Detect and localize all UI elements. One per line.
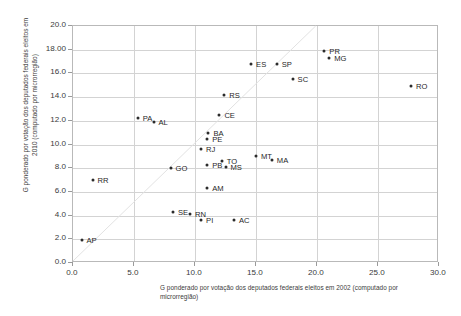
data-point-pa (136, 117, 139, 120)
data-point-sc (291, 78, 294, 81)
y-tick-label: 10.0 (26, 139, 66, 148)
data-point-ms (224, 166, 227, 169)
scatter-chart-figure: G ponderado por votação dos deputados fe… (0, 0, 461, 316)
data-point-ma (270, 158, 273, 161)
data-point-ap (80, 239, 83, 242)
x-tick-mark (316, 262, 317, 266)
data-point-mg (328, 56, 331, 59)
data-point-label-mg: MG (334, 53, 346, 62)
data-point-rn (189, 213, 192, 216)
data-point-se (172, 211, 175, 214)
x-axis-title: G ponderado por votação dos deputados fe… (160, 284, 400, 301)
data-point-label-ce: CE (224, 110, 235, 119)
x-tick-mark (72, 262, 73, 266)
x-tick-mark (194, 262, 195, 266)
data-point-ro (409, 85, 412, 88)
data-point-label-go: GO (176, 164, 188, 173)
y-tick-label: 8.0 (26, 162, 66, 171)
y-tick-label: 6.0 (26, 186, 66, 195)
plot-area: APRRSERNPIACAMGOPBTOMSMTMARJBAPEPAALCERS… (72, 25, 438, 262)
data-point-label-ro: RO (416, 82, 427, 91)
y-tick-label: 20.0 (26, 20, 66, 29)
data-point-label-rj: RJ (206, 145, 215, 154)
data-point-al (152, 120, 155, 123)
x-tick-label: 25.0 (357, 268, 397, 277)
plot-inner: APRRSERNPIACAMGOPBTOMSMTMARJBAPEPAALCERS… (73, 26, 437, 261)
x-tick-label: 5.0 (113, 268, 153, 277)
y-tick-label: 0.0 (26, 257, 66, 266)
y-tick-label: 12.0 (26, 115, 66, 124)
data-point-label-ma: MA (277, 155, 288, 164)
data-point-go (169, 167, 172, 170)
x-tick-mark (438, 262, 439, 266)
data-point-pe (206, 137, 209, 140)
data-point-ac (233, 219, 236, 222)
data-point-label-rr: RR (98, 176, 109, 185)
y-axis-title: G ponderado por votação dos deputados fe… (22, 10, 39, 200)
data-point-label-ac: AC (239, 216, 250, 225)
data-point-label-pi: PI (206, 216, 213, 225)
y-tick-label: 4.0 (26, 210, 66, 219)
y-axis-title-container: G ponderado por votação dos deputados fe… (22, 10, 42, 200)
x-tick-label: 20.0 (296, 268, 336, 277)
data-point-rr (91, 179, 94, 182)
x-tick-label: 10.0 (174, 268, 214, 277)
data-point-pi (200, 219, 203, 222)
data-point-label-se: SE (178, 208, 188, 217)
data-point-label-sc: SC (298, 75, 309, 84)
data-point-label-ap: AP (87, 236, 97, 245)
data-point-mt (255, 155, 258, 158)
x-tick-label: 30.0 (418, 268, 458, 277)
data-point-label-ms: MS (231, 163, 242, 172)
data-point-es (250, 62, 253, 65)
data-point-pr (323, 49, 326, 52)
x-tick-mark (255, 262, 256, 266)
data-point-label-rn: RN (195, 210, 206, 219)
x-tick-mark (133, 262, 134, 266)
x-tick-label: 0.0 (52, 268, 92, 277)
y-tick-label: 16.0 (26, 67, 66, 76)
reference-line (73, 26, 437, 261)
data-point-rs (223, 93, 226, 96)
data-point-label-al: AL (159, 117, 168, 126)
y-tick-label: 18.00 (26, 44, 66, 53)
data-point-label-es: ES (256, 59, 266, 68)
data-point-label-rs: RS (229, 90, 240, 99)
data-point-to (220, 160, 223, 163)
data-point-sp (275, 62, 278, 65)
data-point-rj (200, 148, 203, 151)
data-point-pb (206, 163, 209, 166)
data-point-ce (218, 113, 221, 116)
y-tick-label: 14.0 (26, 91, 66, 100)
x-tick-mark (377, 262, 378, 266)
data-point-am (206, 187, 209, 190)
data-point-label-am: AM (212, 184, 223, 193)
data-point-ba (207, 131, 210, 134)
x-tick-label: 15.0 (235, 268, 275, 277)
data-point-label-pe: PE (212, 134, 222, 143)
data-point-label-sp: SP (282, 59, 292, 68)
y-tick-label: 2.0 (26, 233, 66, 242)
data-point-label-pa: PA (143, 114, 153, 123)
